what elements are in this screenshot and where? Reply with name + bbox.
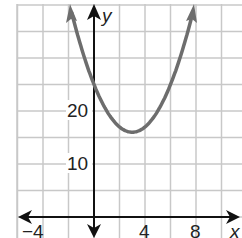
grid-lines bbox=[17, 4, 242, 238]
y-axis-label: y bbox=[100, 5, 113, 26]
tick-label-x-neg4: −4 bbox=[22, 221, 44, 238]
parabola-graph: 20 10 −4 4 8 x y bbox=[0, 0, 242, 238]
y-axis bbox=[87, 4, 101, 238]
x-axis bbox=[18, 210, 240, 224]
tick-label-y-20: 20 bbox=[67, 100, 88, 121]
tick-label-x-8: 8 bbox=[190, 221, 201, 238]
curve-left-arrow-icon bbox=[66, 4, 77, 23]
x-axis-label: x bbox=[229, 221, 241, 238]
tick-label-x-4: 4 bbox=[139, 221, 150, 238]
tick-label-y-10: 10 bbox=[67, 153, 88, 174]
